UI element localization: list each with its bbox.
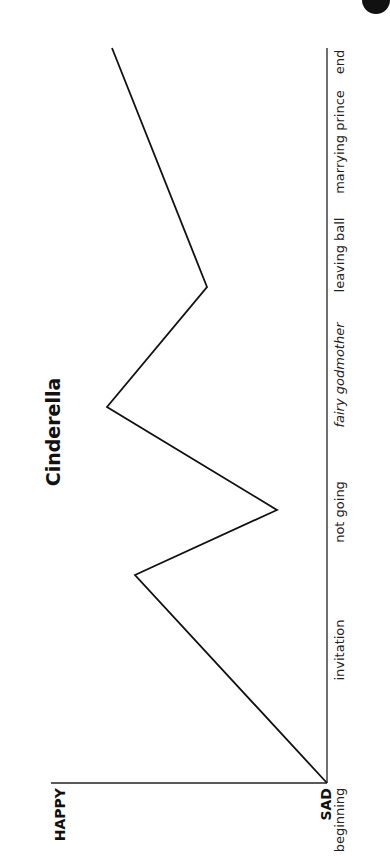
story-line — [107, 48, 327, 783]
happy-label: HAPPY — [52, 787, 68, 841]
tick-leaving-ball: leaving ball — [332, 218, 347, 293]
tick-end: end — [332, 50, 347, 75]
chart-title: Cinderella — [42, 378, 64, 487]
tick-marrying-prince: marrying prince — [332, 90, 347, 194]
tick-beginning: beginning — [332, 788, 347, 853]
tick-fairy-godmother: fairy godmother — [332, 321, 347, 428]
tick-invitation: invitation — [332, 619, 347, 680]
tick-not-going: not going — [332, 481, 347, 543]
